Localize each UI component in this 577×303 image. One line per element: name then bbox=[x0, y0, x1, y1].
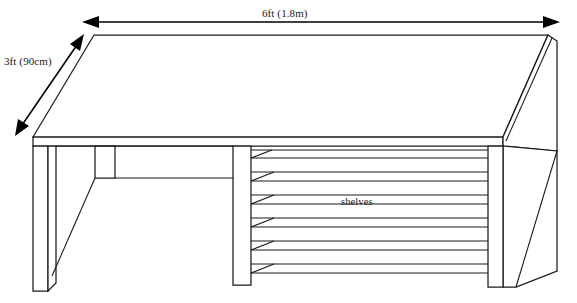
right-side-panel bbox=[503, 146, 557, 287]
dimension-width-arrow bbox=[82, 16, 560, 28]
tabletop bbox=[33, 35, 557, 151]
dimension-depth-label: 3ft (90cm) bbox=[4, 55, 52, 67]
left-diagonal-brace bbox=[52, 178, 95, 276]
shelf-6 bbox=[251, 264, 488, 273]
middle-leg-face bbox=[233, 146, 251, 285]
technical-drawing-canvas: 6ft (1.8m) 3ft (90cm) shelves bbox=[0, 0, 577, 303]
left-leg-front-face bbox=[33, 146, 48, 291]
dim-width-arrowhead-left bbox=[82, 16, 99, 28]
shelf-2 bbox=[251, 172, 488, 181]
shelf-1 bbox=[251, 150, 488, 158]
dim-depth-arrowhead-bottom bbox=[15, 119, 29, 136]
middle-leg bbox=[233, 146, 251, 285]
dimension-width-label: 6ft (1.8m) bbox=[262, 7, 308, 19]
right-leg bbox=[488, 146, 503, 287]
tabletop-front-edge bbox=[33, 137, 503, 146]
dim-width-arrowhead-right bbox=[543, 16, 560, 28]
apron-block bbox=[95, 146, 115, 178]
left-leg bbox=[33, 146, 56, 291]
apron-rail bbox=[52, 146, 233, 276]
dim-depth-arrowhead-top bbox=[70, 34, 84, 51]
right-leg-face bbox=[488, 146, 503, 287]
table-line-drawing bbox=[0, 0, 577, 303]
tabletop-surface bbox=[33, 35, 548, 137]
shelf-4 bbox=[251, 218, 488, 227]
shelves-label: shelves bbox=[341, 196, 373, 207]
shelf-5 bbox=[251, 241, 488, 250]
side-panel-face bbox=[503, 146, 557, 287]
shelf-stack bbox=[251, 150, 488, 273]
